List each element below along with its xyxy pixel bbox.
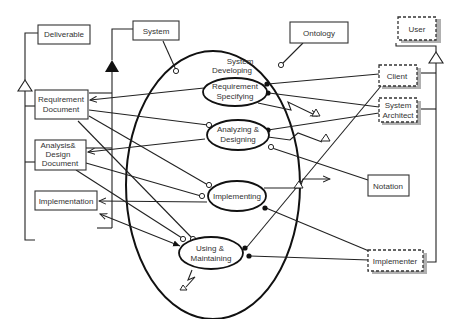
analysis-design-label-line2: Design — [46, 150, 71, 159]
notation-box[interactable]: Notation — [368, 175, 409, 196]
implementing-process[interactable]: Implementing — [208, 181, 266, 211]
system-architect-box[interactable]: System Architect — [379, 98, 421, 125]
system-developing-label-line2: Developing — [212, 66, 252, 75]
notation-label: Notation — [373, 182, 403, 191]
analyzing-designing-label-line2: Designing — [220, 135, 256, 144]
ontology-label: Ontology — [303, 29, 335, 38]
deliverable-label: Deliverable — [44, 30, 85, 39]
generalization-triangle-icon — [18, 80, 32, 91]
using-maintaining-label-line1: Using & — [196, 244, 225, 253]
deliverable-box[interactable]: Deliverable — [38, 25, 90, 44]
requirement-specifying-label-line1: Requirement — [212, 82, 259, 91]
system-architect-label-line2: Architect — [382, 111, 414, 120]
opm-diagram: Deliverable System Ontology Requirement … — [0, 0, 459, 319]
system-label: System — [143, 27, 170, 36]
client-box[interactable]: Client — [379, 65, 421, 89]
requirement-document-box[interactable]: Requirement Document — [35, 90, 88, 119]
system-developing-label-line1: System — [227, 57, 254, 66]
analyzing-designing-process[interactable]: Analyzing & Designing — [207, 120, 269, 150]
system-box[interactable]: System — [133, 21, 179, 40]
generalization-triangle-icon — [429, 52, 443, 63]
analysis-design-label-line3: Document — [42, 159, 79, 168]
requirement-document-label-line2: Document — [43, 105, 80, 114]
using-maintaining-label-line2: Maintaining — [191, 254, 232, 263]
implementing-label: Implementing — [213, 192, 261, 201]
user-box[interactable]: User — [398, 17, 441, 43]
implementation-label: Implementation — [39, 197, 94, 206]
implementation-box[interactable]: Implementation — [35, 191, 97, 210]
implementer-label: Implementer — [373, 257, 418, 266]
requirement-specifying-label-line2: Specifying — [217, 92, 254, 101]
analyzing-designing-label-line1: Analyzing & — [217, 125, 260, 134]
ontology-box[interactable]: Ontology — [290, 22, 348, 43]
requirement-specifying-process[interactable]: Requirement Specifying — [203, 78, 267, 106]
analysis-design-label-line1: Analysis& — [40, 141, 76, 150]
client-label: Client — [387, 72, 408, 81]
user-label: User — [409, 25, 426, 34]
requirement-document-label-line1: Requirement — [38, 95, 85, 104]
implementer-box[interactable]: Implementer — [368, 250, 427, 274]
aggregation-triangle-icon — [105, 60, 119, 72]
system-architect-label-line1: System — [385, 101, 412, 110]
using-maintaining-process[interactable]: Using & Maintaining — [179, 237, 243, 269]
analysis-design-document-box[interactable]: Analysis& Design Document — [35, 140, 86, 170]
